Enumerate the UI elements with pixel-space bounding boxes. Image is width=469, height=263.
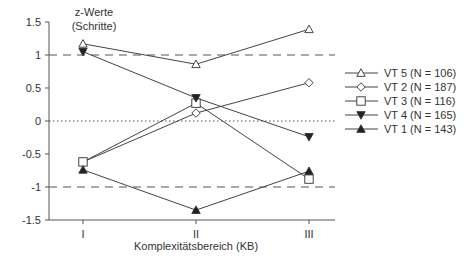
legend-label: VT 2 (N = 187)	[384, 81, 456, 93]
y-tick-label: -1	[31, 181, 41, 193]
y-tick-label: 0.5	[26, 82, 41, 94]
y-tick-label: 1	[35, 49, 41, 61]
axes: 1.510.50-0.5-1-1.5IIIIII	[22, 16, 335, 240]
y-tick-label: 0	[35, 115, 41, 127]
x-tick-label: I	[81, 228, 84, 240]
diamond-marker	[192, 109, 200, 117]
triangle-up-marker	[79, 40, 87, 48]
y-tick-label: 1.5	[26, 16, 41, 28]
legend-label: VT 5 (N = 106)	[384, 67, 456, 79]
legend-label: VT 1 (N = 143)	[384, 123, 456, 135]
y-tick-label: -0.5	[22, 148, 41, 160]
triangle-up-marker	[79, 166, 87, 174]
y-tick-label: -1.5	[22, 214, 41, 226]
square-marker	[305, 175, 313, 183]
square-marker	[357, 97, 365, 105]
triangle-up-marker	[305, 25, 313, 33]
triangle-up-marker	[305, 167, 313, 175]
x-axis-label: Komplexitätsbereich (KB)	[134, 240, 258, 252]
legend-label: VT 3 (N = 116)	[384, 95, 455, 107]
x-tick-label: III	[304, 228, 313, 240]
series-line	[83, 170, 309, 210]
line-chart: 1.510.50-0.5-1-1.5IIIIII z-Werte (Schrit…	[0, 0, 469, 263]
series-lines	[79, 25, 313, 213]
y-axis-label-line1: z-Werte	[75, 6, 113, 18]
legend-label: VT 4 (N = 165)	[384, 109, 456, 121]
legend: VT 5 (N = 106)VT 2 (N = 187)VT 3 (N = 11…	[345, 67, 456, 135]
diamond-marker	[357, 83, 365, 91]
x-tick-label: II	[193, 228, 199, 240]
series-line	[83, 29, 309, 64]
y-axis-label-line2: (Schritte)	[72, 20, 117, 32]
diamond-marker	[305, 79, 313, 87]
triangle-down-marker	[305, 133, 313, 141]
triangle-up-marker	[192, 206, 200, 214]
